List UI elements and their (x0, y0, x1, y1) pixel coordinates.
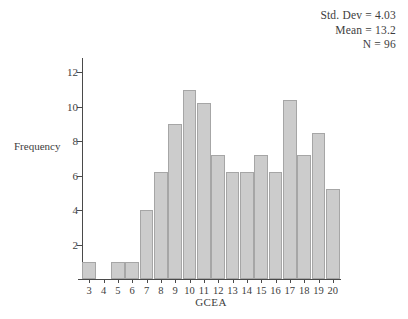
x-axis-title: GCEA (82, 296, 340, 308)
x-tick-label: 19 (313, 285, 324, 296)
histogram-figure: Std. Dev = 4.03 Mean = 13.2 N = 96 Frequ… (0, 0, 408, 319)
histogram-bar (283, 100, 297, 279)
x-tick-label: 3 (87, 285, 92, 296)
histogram-bar (211, 155, 225, 279)
histogram-bar (183, 90, 197, 279)
histogram-bar (312, 133, 326, 279)
x-tick-label: 12 (213, 285, 224, 296)
x-tick-mark (276, 279, 277, 283)
y-tick-label: 8 (73, 136, 79, 147)
statistics-annotation: Std. Dev = 4.03 Mean = 13.2 N = 96 (320, 8, 396, 52)
x-tick-mark (190, 279, 191, 283)
x-tick-label: 15 (256, 285, 267, 296)
y-tick-label: 2 (73, 239, 79, 250)
x-tick-mark (304, 279, 305, 283)
x-tick-mark (319, 279, 320, 283)
x-tick-label: 18 (299, 285, 310, 296)
x-tick-mark (247, 279, 248, 283)
histogram-bar (269, 172, 283, 279)
histogram-bar (82, 262, 96, 279)
x-tick-mark (204, 279, 205, 283)
x-tick-mark (89, 279, 90, 283)
x-tick-mark (175, 279, 176, 283)
x-tick-label: 16 (270, 285, 281, 296)
y-tick-label: 6 (73, 170, 79, 181)
x-tick-label: 9 (173, 285, 178, 296)
x-tick-mark (333, 279, 334, 283)
y-tick-label: 12 (67, 67, 78, 78)
x-tick-label: 8 (158, 285, 163, 296)
histogram-bar (240, 172, 254, 279)
histogram-bar (168, 124, 182, 279)
x-tick-mark (218, 279, 219, 283)
plot-area: 24681012 34567891011121314151617181920 (82, 62, 340, 279)
x-tick-label: 17 (285, 285, 296, 296)
x-tick-label: 14 (242, 285, 253, 296)
histogram-bar (226, 172, 240, 279)
x-tick-label: 4 (101, 285, 106, 296)
x-tick-mark (147, 279, 148, 283)
histogram-bars (82, 62, 340, 279)
x-tick-mark (233, 279, 234, 283)
histogram-bar (125, 262, 139, 279)
histogram-bar (297, 155, 311, 279)
x-tick-mark (118, 279, 119, 283)
histogram-bar (197, 103, 211, 279)
histogram-bar (154, 172, 168, 279)
x-tick-label: 7 (144, 285, 149, 296)
x-tick-mark (104, 279, 105, 283)
histogram-bar (111, 262, 125, 279)
x-tick-label: 13 (227, 285, 238, 296)
std-dev-text: Std. Dev = 4.03 (320, 8, 396, 23)
histogram-bar (254, 155, 268, 279)
sample-size-text: N = 96 (320, 37, 396, 52)
mean-text: Mean = 13.2 (320, 23, 396, 38)
x-tick-label: 20 (328, 285, 339, 296)
x-tick-label: 6 (130, 285, 135, 296)
histogram-bar (140, 210, 154, 279)
x-tick-label: 11 (199, 285, 209, 296)
y-tick-label: 10 (67, 101, 78, 112)
y-axis-title: Frequency (14, 140, 60, 152)
x-tick-mark (290, 279, 291, 283)
x-tick-mark (261, 279, 262, 283)
x-tick-mark (161, 279, 162, 283)
y-tick-label: 4 (73, 205, 79, 216)
x-tick-label: 5 (115, 285, 120, 296)
x-tick-mark (132, 279, 133, 283)
x-tick-label: 10 (184, 285, 195, 296)
histogram-bar (326, 189, 340, 279)
